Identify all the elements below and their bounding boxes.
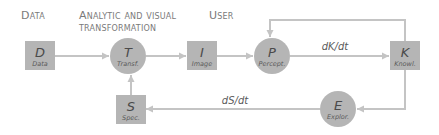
node-e-label: Explor.	[327, 113, 349, 121]
node-d-symbol: D	[35, 45, 45, 60]
edge-k-to-e	[357, 70, 405, 109]
node-t-symbol: T	[124, 45, 133, 60]
node-e: E Explor.	[320, 91, 356, 127]
node-k: K Knowl.	[390, 41, 420, 70]
node-i: I Image	[187, 41, 217, 70]
node-p: P Percept.	[254, 38, 290, 74]
node-i-symbol: I	[200, 45, 204, 60]
node-s: S Spec.	[116, 95, 146, 124]
node-p-symbol: P	[268, 45, 276, 60]
node-t: T Transf.	[110, 38, 146, 74]
edge-k-to-p-feedback	[270, 20, 405, 41]
node-i-label: Image	[192, 60, 212, 68]
node-s-label: Spec.	[122, 114, 140, 122]
node-p-label: Percept.	[259, 60, 286, 68]
node-d-label: Data	[32, 60, 48, 68]
node-k-label: Knowl.	[394, 60, 416, 68]
node-d: D Data	[25, 41, 55, 70]
node-e-symbol: E	[334, 98, 343, 113]
node-k-symbol: K	[401, 45, 411, 60]
node-s-symbol: S	[127, 99, 135, 114]
edge-label-dk-dt: dK/dt	[322, 41, 350, 52]
diagram-canvas: D Data T Transf. I Image P Percept. K Kn…	[0, 0, 439, 135]
edge-label-ds-dt: dS/dt	[222, 95, 249, 106]
node-t-label: Transf.	[117, 60, 139, 68]
